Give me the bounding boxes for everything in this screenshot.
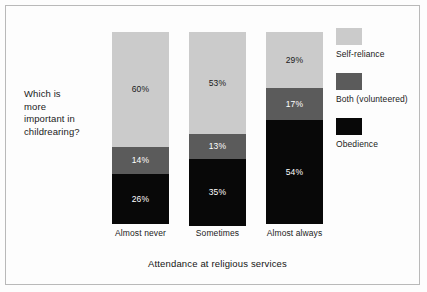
segment-value-label: 13% <box>209 142 227 151</box>
segment-value-label: 26% <box>132 195 150 204</box>
segment-both[interactable]: 17% <box>266 88 323 121</box>
segment-value-label: 60% <box>132 85 150 94</box>
legend-entry-obedience[interactable]: Obedience <box>336 118 408 149</box>
question-line-3: important in <box>24 113 106 126</box>
chart-figure: Which is more important in childrearing?… <box>0 0 427 292</box>
legend-swatch-self-reliance <box>336 28 362 45</box>
legend-entry-self-reliance[interactable]: Self-reliance <box>336 28 408 59</box>
legend-label-both: Both (volunteered) <box>336 94 408 104</box>
bar-group-sometimes: 53% 13% 35% Sometimes <box>189 32 246 224</box>
segment-obedience[interactable]: 35% <box>189 159 246 226</box>
segment-self-reliance[interactable]: 53% <box>189 32 246 134</box>
question-line-4: childrearing? <box>24 126 106 139</box>
x-tick-label-almost-always: Almost always <box>266 228 323 238</box>
bar-group-almost-never: 60% 14% 26% Almost never <box>112 32 169 224</box>
question-annotation: Which is more important in childrearing? <box>24 88 106 138</box>
segment-value-label: 53% <box>209 79 227 88</box>
segment-both[interactable]: 13% <box>189 134 246 159</box>
legend-label-self-reliance: Self-reliance <box>336 49 408 59</box>
legend-label-obedience: Obedience <box>336 139 408 149</box>
x-tick-label-sometimes: Sometimes <box>189 228 246 238</box>
stacked-bar: 53% 13% 35% <box>189 32 246 224</box>
x-tick-label-almost-never: Almost never <box>112 228 169 238</box>
segment-value-label: 54% <box>286 168 304 177</box>
stacked-bar: 60% 14% 26% <box>112 32 169 224</box>
segment-value-label: 29% <box>286 56 304 65</box>
segment-self-reliance[interactable]: 29% <box>266 32 323 88</box>
segment-both[interactable]: 14% <box>112 147 169 174</box>
segment-value-label: 14% <box>132 156 150 165</box>
legend-swatch-both <box>336 73 362 90</box>
legend-swatch-obedience <box>336 118 362 135</box>
segment-obedience[interactable]: 26% <box>112 174 169 224</box>
segment-value-label: 17% <box>286 100 304 109</box>
legend-entry-both[interactable]: Both (volunteered) <box>336 73 408 104</box>
bar-group-almost-always: 29% 17% 54% Almost always <box>266 32 323 224</box>
segment-self-reliance[interactable]: 60% <box>112 32 169 147</box>
segment-value-label: 35% <box>209 188 227 197</box>
question-line-1: Which is <box>24 88 106 101</box>
legend: Self-reliance Both (volunteered) Obedien… <box>336 28 408 163</box>
question-line-2: more <box>24 101 106 114</box>
stacked-bar: 29% 17% 54% <box>266 32 323 224</box>
x-axis-title: Attendance at religious services <box>110 258 325 269</box>
segment-obedience[interactable]: 54% <box>266 120 323 224</box>
plot-area: 60% 14% 26% Almost never 53% 13% <box>110 32 325 224</box>
